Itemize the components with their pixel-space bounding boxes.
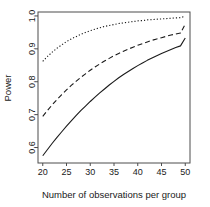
x-tick-label: 30 bbox=[85, 167, 95, 177]
y-tick-label: 1.0 bbox=[27, 10, 37, 23]
x-tick-label: 20 bbox=[38, 167, 48, 177]
x-tick-label: 45 bbox=[156, 167, 166, 177]
dotted-curve bbox=[43, 16, 186, 61]
x-tick-label: 35 bbox=[109, 167, 119, 177]
y-tick-label: 0.7 bbox=[27, 108, 37, 121]
axis-tick-labels: 202530354045500.60.70.80.91.0 bbox=[27, 10, 190, 177]
y-tick-label: 0.8 bbox=[27, 75, 37, 88]
y-tick-label: 0.9 bbox=[27, 43, 37, 56]
plot-frame bbox=[38, 12, 190, 163]
solid-curve bbox=[43, 38, 186, 156]
y-tick-label: 0.6 bbox=[27, 141, 37, 154]
plot-curves bbox=[43, 16, 186, 155]
chart-canvas: 202530354045500.60.70.80.91.0 Number of … bbox=[0, 0, 210, 207]
x-axis-label: Number of observations per group bbox=[42, 189, 186, 200]
plot-axes bbox=[35, 12, 190, 166]
x-tick-label: 40 bbox=[133, 167, 143, 177]
power-curve-plot: 202530354045500.60.70.80.91.0 Number of … bbox=[0, 0, 210, 207]
y-axis-label: Power bbox=[2, 75, 13, 102]
x-tick-label: 50 bbox=[180, 167, 190, 177]
dashed-curve bbox=[43, 24, 186, 116]
x-tick-label: 25 bbox=[61, 167, 71, 177]
